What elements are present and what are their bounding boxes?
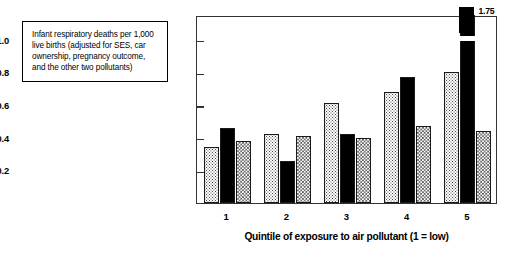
bar [356,138,371,203]
bar [280,161,295,204]
y-axis-tick [196,41,204,42]
bar [220,128,235,203]
x-axis-tick-label: 1 [206,211,246,222]
x-axis-title: Quintile of exposure to air pollutant (1… [196,231,497,242]
overflow-bar-stub [459,7,474,33]
bar [204,147,219,203]
bar [324,103,339,203]
bar-group [197,128,257,203]
bar-group [257,134,317,203]
bar [264,134,279,203]
x-axis-tick-label: 2 [266,211,306,222]
overflow-value-label: 1.75 [478,6,494,16]
bar [296,136,311,203]
y-axis-tick-label: 1.0 [0,35,9,46]
bar-group [378,77,438,203]
bar [444,72,459,203]
bar [416,126,431,203]
caption-text: Infant respiratory deaths per 1,000 live… [32,30,154,72]
y-axis-tick-label: 0.6 [0,100,9,111]
chart-figure: Infant respiratory deaths per 1,000 live… [0,0,514,258]
bar [460,15,475,203]
y-axis-tick [196,106,204,107]
bar-break-gap [458,36,475,41]
x-axis-tick-label: 5 [447,211,487,222]
plot-area [197,17,496,203]
y-axis-tick-label: 0.8 [0,67,9,78]
y-axis-tick-label: 0.2 [0,165,9,176]
y-axis-tick-label: 0.4 [0,133,9,144]
bar [384,92,399,203]
bar [476,131,491,203]
bar-group [438,15,498,203]
y-axis-tick [196,74,204,75]
x-axis-tick-label: 3 [327,211,367,222]
x-axis-tick-label: 4 [387,211,427,222]
bar [340,134,355,203]
bar [236,141,251,203]
bar [400,77,415,203]
plot-frame: Total suspended particulatesSO2Nitrogen … [196,16,497,204]
caption-box: Infant respiratory deaths per 1,000 live… [22,21,168,82]
bar-group [317,103,377,203]
